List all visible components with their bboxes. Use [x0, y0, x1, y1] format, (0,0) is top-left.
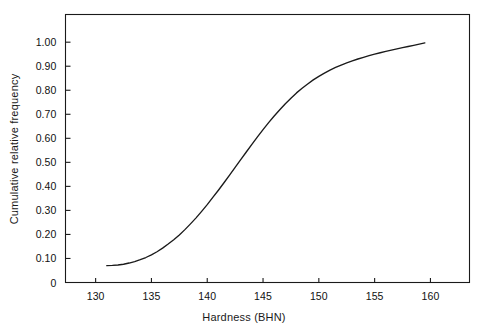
x-tick-label: 135: [143, 291, 161, 302]
plot-canvas: [0, 0, 488, 335]
y-axis-title: Cumulative relative frequency: [8, 73, 20, 224]
x-tick-label: 140: [198, 291, 216, 302]
x-tick-label: 145: [254, 291, 272, 302]
x-axis-title: Hardness (BHN): [0, 311, 488, 323]
y-axis-title-wrapper: Cumulative relative frequency: [6, 14, 22, 283]
x-tick-label: 160: [422, 291, 440, 302]
chart-figure: 130135140145150155160 00.100.200.300.400…: [0, 0, 488, 335]
x-tick-label: 150: [310, 291, 328, 302]
x-tick-label: 155: [366, 291, 384, 302]
x-tick-label: 130: [87, 291, 105, 302]
figure-background: [0, 0, 488, 335]
